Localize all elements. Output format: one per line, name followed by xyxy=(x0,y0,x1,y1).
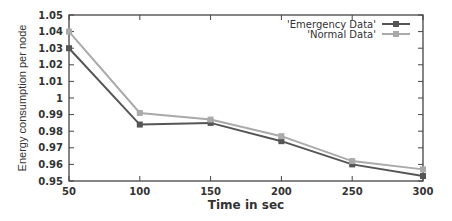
x-tick-label: 100 xyxy=(129,186,150,197)
data-point-marker xyxy=(137,122,143,128)
legend-marker xyxy=(393,21,399,27)
series-line-1 xyxy=(69,32,423,170)
data-point-marker xyxy=(420,173,426,179)
y-tick-label: 0.99 xyxy=(38,109,63,120)
data-point-marker xyxy=(420,166,426,172)
data-point-marker xyxy=(66,29,72,35)
line-chart: 0.950.960.970.980.9911.011.021.031.041.0… xyxy=(0,0,452,221)
y-tick-label: 1.03 xyxy=(38,43,63,54)
y-tick-label: 1.01 xyxy=(38,76,63,87)
data-point-marker xyxy=(66,45,72,51)
y-tick-label: 1.02 xyxy=(38,59,63,70)
x-tick-label: 50 xyxy=(62,186,76,197)
data-point-marker xyxy=(208,117,214,123)
legend-label: 'Normal Data' xyxy=(307,29,376,40)
legend-marker xyxy=(393,31,399,37)
legend: 'Emergency Data''Normal Data' xyxy=(287,19,410,40)
data-point-marker xyxy=(137,110,143,116)
y-tick-label: 0.98 xyxy=(38,126,63,137)
series-group xyxy=(66,29,426,179)
y-tick-label: 0.96 xyxy=(38,159,63,170)
y-tick-label: 0.95 xyxy=(38,176,63,187)
plot-frame xyxy=(69,15,423,181)
data-point-marker xyxy=(349,158,355,164)
x-axis-label: Time in sec xyxy=(208,198,284,212)
x-tick-label: 150 xyxy=(200,186,221,197)
y-tick-label: 0.97 xyxy=(38,142,63,153)
y-tick-label: 1.05 xyxy=(38,10,63,21)
x-tick-label: 250 xyxy=(342,186,363,197)
x-axis: 50100150200250300 xyxy=(62,15,433,197)
x-tick-label: 300 xyxy=(413,186,434,197)
y-tick-label: 1.04 xyxy=(38,26,63,37)
y-axis-label: Energy consumption per node xyxy=(16,25,28,172)
data-point-marker xyxy=(278,133,284,139)
y-tick-label: 1 xyxy=(56,93,63,104)
x-tick-label: 200 xyxy=(271,186,292,197)
series-line-0 xyxy=(69,48,423,176)
